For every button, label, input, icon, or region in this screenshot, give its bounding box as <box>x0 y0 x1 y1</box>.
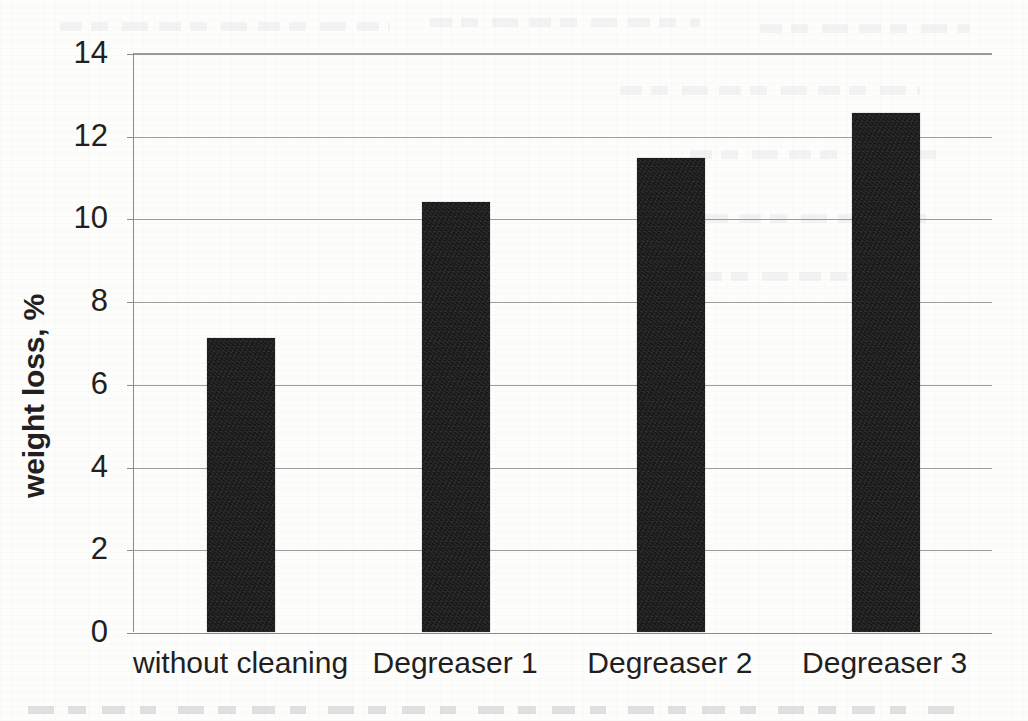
y-axis-tick <box>127 633 134 634</box>
cut-off-caption-artifact <box>28 706 968 714</box>
gridline <box>134 633 992 634</box>
y-axis-tick <box>127 550 134 551</box>
y-axis-tick <box>127 219 134 220</box>
y-axis-tick-label: 4 <box>91 451 108 482</box>
y-axis-tick-label: 8 <box>91 285 108 316</box>
x-axis-category-label: Degreaser 1 <box>348 648 563 678</box>
y-axis-tick <box>127 137 134 138</box>
bar-chart: weight loss, % 14121086420 without clean… <box>0 0 1028 721</box>
bar <box>637 158 705 632</box>
y-axis-tick <box>127 468 134 469</box>
x-axis-category-label: Degreaser 3 <box>777 648 992 678</box>
y-axis-tick-label: 14 <box>74 37 108 68</box>
bar <box>852 113 920 632</box>
bar <box>207 338 275 632</box>
y-axis-tick-label: 0 <box>91 616 108 647</box>
y-axis-tick-label: 10 <box>74 202 108 233</box>
y-axis-tick-label: 2 <box>91 533 108 564</box>
y-axis-tick <box>127 54 134 55</box>
bar <box>422 202 490 632</box>
plot-area <box>133 53 992 632</box>
y-axis-tick-label: 12 <box>74 120 108 151</box>
gridline <box>134 54 992 55</box>
y-axis-tick-labels: 14121086420 <box>0 0 120 721</box>
y-axis-tick <box>127 385 134 386</box>
x-axis-category-label: Degreaser 2 <box>563 648 778 678</box>
y-axis-tick-label: 6 <box>91 368 108 399</box>
x-axis-category-label: without cleaning <box>133 648 348 678</box>
y-axis-tick <box>127 302 134 303</box>
